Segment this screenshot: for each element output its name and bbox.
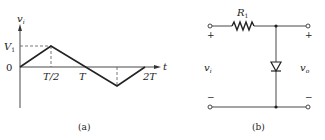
x-axis-label: t — [163, 61, 168, 72]
input-terminal-bottom — [208, 105, 212, 109]
output-voltage-label: vo — [300, 62, 310, 74]
zero-label: 0 — [6, 62, 12, 73]
output-plus-sign: + — [305, 30, 313, 40]
tick-label-two-period: 2T — [142, 71, 157, 82]
output-minus-sign: − — [305, 92, 313, 102]
tick-label-half-period: T/2 — [43, 71, 59, 82]
diode-icon — [271, 62, 281, 71]
x-axis-arrow-icon — [154, 65, 161, 69]
input-voltage-label: vi — [204, 62, 212, 74]
caption-b: (b) — [252, 122, 265, 132]
resistor-label: R1 — [236, 7, 248, 19]
peak-label: V1 — [4, 41, 15, 53]
y-axis-label: vi — [17, 13, 25, 25]
input-minus-sign: − — [207, 92, 215, 102]
y-axis-arrow-icon — [18, 24, 22, 31]
junction-top-icon — [274, 24, 277, 27]
diagram-canvas: vi t V1 0 T/2 T 2T (a) R1 + + − − vi — [0, 0, 325, 140]
caption-a: (a) — [78, 122, 90, 132]
diode-circuit: R1 + + − − vi vo (b) — [204, 7, 313, 132]
output-terminal-top — [306, 24, 310, 28]
input-terminal-top — [208, 24, 212, 28]
junction-bottom-icon — [274, 105, 277, 108]
resistor-icon — [232, 22, 254, 30]
tick-label-period: T — [79, 71, 87, 82]
output-terminal-bottom — [306, 105, 310, 109]
waveform-plot: vi t V1 0 T/2 T 2T (a) — [4, 13, 168, 132]
input-plus-sign: + — [207, 30, 215, 40]
